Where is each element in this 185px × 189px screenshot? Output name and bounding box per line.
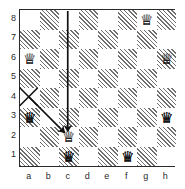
rank-label-3: 3 <box>0 111 16 120</box>
file-label-h: h <box>156 172 176 181</box>
square-c3[interactable] <box>59 108 79 128</box>
square-c4[interactable] <box>59 88 79 108</box>
square-f6[interactable] <box>118 49 138 69</box>
rank-label-2: 2 <box>0 131 16 140</box>
square-h2[interactable] <box>157 127 177 147</box>
rank-label-8: 8 <box>0 14 16 23</box>
rank-label-6: 6 <box>0 53 16 62</box>
square-d6[interactable] <box>79 49 99 69</box>
square-a7[interactable] <box>20 30 40 50</box>
square-f4[interactable] <box>118 88 138 108</box>
square-b3[interactable] <box>40 108 60 128</box>
file-label-a: a <box>19 172 39 181</box>
square-h1[interactable] <box>157 147 177 167</box>
file-label-row: abcdefgh <box>19 172 175 188</box>
file-label-e: e <box>97 172 117 181</box>
square-c5[interactable] <box>59 69 79 89</box>
square-a2[interactable] <box>20 127 40 147</box>
piece-glyph: ♕ <box>23 51 36 66</box>
square-d1[interactable] <box>79 147 99 167</box>
square-c7[interactable] <box>59 30 79 50</box>
piece-white-queen-h6[interactable]: ♕ <box>157 49 177 69</box>
square-d7[interactable] <box>79 30 99 50</box>
square-b8[interactable] <box>40 10 60 30</box>
piece-white-queen-a6[interactable]: ♕ <box>20 49 40 69</box>
chess-board[interactable]: ♕♕♕♛♛♕♛♛ <box>19 9 175 167</box>
piece-black-queen-f1[interactable]: ♛ <box>118 147 138 167</box>
square-f7[interactable] <box>118 30 138 50</box>
square-c8[interactable] <box>59 10 79 30</box>
rank-label-4: 4 <box>0 92 16 101</box>
square-g4[interactable] <box>137 88 157 108</box>
square-g1[interactable] <box>137 147 157 167</box>
piece-glyph: ♛ <box>23 109 36 124</box>
file-label-d: d <box>78 172 98 181</box>
square-f3[interactable] <box>118 108 138 128</box>
square-h8[interactable] <box>157 10 177 30</box>
square-g3[interactable] <box>137 108 157 128</box>
piece-black-queen-a3[interactable]: ♛ <box>20 108 40 128</box>
square-e2[interactable] <box>98 127 118 147</box>
square-b2[interactable] <box>40 127 60 147</box>
square-c6[interactable] <box>59 49 79 69</box>
square-f2[interactable] <box>118 127 138 147</box>
file-label-f: f <box>117 172 137 181</box>
square-e5[interactable] <box>98 69 118 89</box>
square-g6[interactable] <box>137 49 157 69</box>
rank-label-7: 7 <box>0 33 16 42</box>
piece-glyph: ♛ <box>160 109 173 124</box>
square-d8[interactable] <box>79 10 99 30</box>
square-b6[interactable] <box>40 49 60 69</box>
piece-white-queen-c2[interactable]: ♕ <box>59 127 79 147</box>
file-label-c: c <box>58 172 78 181</box>
piece-glyph: ♕ <box>62 129 75 144</box>
piece-black-queen-h3[interactable]: ♛ <box>157 108 177 128</box>
square-h5[interactable] <box>157 69 177 89</box>
piece-glyph: ♛ <box>121 148 134 163</box>
square-e8[interactable] <box>98 10 118 30</box>
chess-diagram: 87654321 ♕♕♕♛♛♕♛♛ abcdefgh <box>0 0 185 189</box>
square-g2[interactable] <box>137 127 157 147</box>
square-g7[interactable] <box>137 30 157 50</box>
square-h7[interactable] <box>157 30 177 50</box>
square-g5[interactable] <box>137 69 157 89</box>
square-d2[interactable] <box>79 127 99 147</box>
square-b4[interactable] <box>40 88 60 108</box>
square-h4[interactable] <box>157 88 177 108</box>
square-e4[interactable] <box>98 88 118 108</box>
rank-label-column: 87654321 <box>0 9 18 167</box>
square-a1[interactable] <box>20 147 40 167</box>
rank-label-5: 5 <box>0 72 16 81</box>
piece-glyph: ♛ <box>62 148 75 163</box>
square-d4[interactable] <box>79 88 99 108</box>
square-a4[interactable] <box>20 88 40 108</box>
square-d5[interactable] <box>79 69 99 89</box>
square-f8[interactable] <box>118 10 138 30</box>
square-b7[interactable] <box>40 30 60 50</box>
square-a8[interactable] <box>20 10 40 30</box>
file-label-b: b <box>39 172 59 181</box>
file-label-g: g <box>136 172 156 181</box>
square-d3[interactable] <box>79 108 99 128</box>
square-e6[interactable] <box>98 49 118 69</box>
square-e3[interactable] <box>98 108 118 128</box>
square-b5[interactable] <box>40 69 60 89</box>
square-f5[interactable] <box>118 69 138 89</box>
piece-glyph: ♕ <box>140 12 153 27</box>
square-e7[interactable] <box>98 30 118 50</box>
square-e1[interactable] <box>98 147 118 167</box>
piece-white-queen-g8[interactable]: ♕ <box>137 10 157 30</box>
piece-glyph: ♕ <box>160 51 173 66</box>
square-b1[interactable] <box>40 147 60 167</box>
rank-label-1: 1 <box>0 150 16 159</box>
piece-black-queen-c1[interactable]: ♛ <box>59 147 79 167</box>
square-a5[interactable] <box>20 69 40 89</box>
